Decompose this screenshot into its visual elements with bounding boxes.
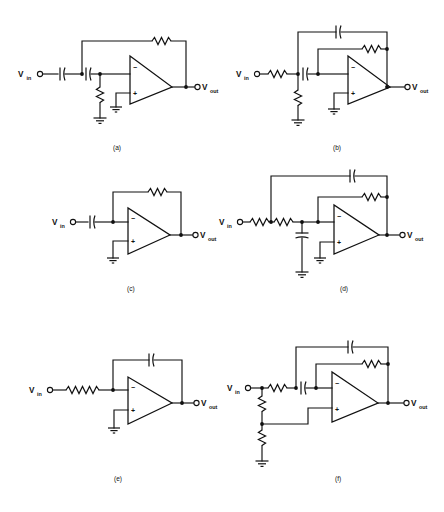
caption-a: (a)	[113, 144, 121, 152]
caption-e: (e)	[114, 475, 122, 483]
output-label-a: V	[202, 83, 208, 92]
divider-resistor-lower-f	[258, 430, 265, 446]
output-label-d: V	[407, 231, 413, 240]
ground-noninverting-a	[110, 107, 122, 112]
output-label-c: V	[200, 231, 206, 240]
wire-a-ni	[116, 93, 130, 107]
opamp-c-inverting-pin: −	[131, 215, 135, 222]
output-terminal-e[interactable]	[194, 400, 199, 405]
wire-c-fb-right	[167, 192, 181, 235]
opamp-f-noninverting-pin: +	[335, 406, 339, 413]
feedback-resistor-b	[362, 45, 381, 52]
opamp-e-noninverting-pin: +	[131, 407, 135, 414]
node-b-fb	[385, 47, 389, 51]
feedback-capacitor-f	[348, 341, 353, 354]
wire-f-fbc-left	[296, 347, 348, 388]
input-terminal-b[interactable]	[254, 71, 259, 76]
wire-e-ni	[114, 410, 128, 428]
input-label-sub-a: in	[27, 75, 32, 81]
circuit-d: V in	[219, 170, 424, 294]
input-label-sub-b: in	[244, 75, 249, 81]
input-terminal-a[interactable]	[37, 71, 42, 76]
opamp-c-noninverting-pin: +	[131, 238, 135, 245]
node-d-fb	[385, 195, 389, 199]
shunt-capacitor-d	[296, 233, 309, 238]
feedback-resistor-c	[148, 188, 167, 195]
wire-f-fbc-right	[353, 347, 388, 403]
input-terminal-f[interactable]	[245, 385, 250, 390]
circuit-b: V in	[236, 26, 429, 153]
feedback-capacitor-b	[336, 26, 341, 39]
input-label-sub-c: in	[60, 223, 65, 229]
input-resistor-e	[66, 386, 99, 393]
wire-f-tap-to-ni	[262, 408, 332, 424]
input-label-d: V	[219, 218, 225, 227]
circuit-e: V in − + V out (e)	[29, 354, 218, 484]
input-terminal-c[interactable]	[70, 219, 75, 224]
wire-d-fbc-right	[355, 176, 387, 235]
shunt-resistor-a	[96, 87, 103, 103]
wire-b-fbc-left	[298, 32, 336, 74]
feedback-resistor-d	[362, 193, 381, 200]
wire-a-fb-right	[171, 41, 186, 87]
output-label-sub-c: out	[208, 236, 217, 242]
opamp-b: − +	[348, 56, 390, 104]
series-capacitor-f	[301, 382, 306, 395]
ground-divider-f	[256, 461, 269, 466]
feedback-resistor-f	[362, 360, 381, 367]
output-label-e: V	[201, 399, 207, 408]
input-resistor-1-d	[250, 218, 269, 225]
caption-c: (c)	[127, 285, 135, 293]
output-label-f: V	[411, 399, 417, 408]
opamp-e-inverting-pin: −	[131, 384, 135, 391]
opamp-a: − +	[130, 56, 172, 104]
wire-d-ni	[320, 242, 334, 258]
input-terminal-d[interactable]	[237, 219, 242, 224]
input-label-f: V	[227, 384, 233, 393]
ground-noninverting-e	[108, 428, 120, 433]
input-resistor-2-d	[274, 218, 293, 225]
opamp-a-inverting-pin: −	[133, 64, 137, 71]
output-terminal-f[interactable]	[404, 400, 409, 405]
wire-e-fb-right	[154, 360, 182, 403]
node-b-out	[385, 85, 389, 89]
wire-a-fb-left	[82, 41, 152, 74]
output-terminal-a[interactable]	[195, 84, 200, 89]
output-terminal-b[interactable]	[405, 84, 410, 89]
opamp-c: − +	[128, 208, 170, 254]
input-resistor-b	[268, 70, 287, 77]
input-label-sub-d: in	[227, 223, 232, 229]
wire-b-ni	[334, 93, 348, 109]
circuit-c: V in − + V out (c)	[52, 188, 217, 293]
node-f-fb	[386, 362, 390, 366]
input-label-c: V	[52, 218, 58, 227]
opamp-e: − +	[128, 377, 172, 424]
ground-noninverting-b	[328, 109, 340, 114]
input-label-sub-e: in	[37, 391, 42, 397]
output-label-sub-a: out	[210, 88, 219, 94]
input-label-a: V	[18, 70, 24, 79]
feedback-capacitor-e	[149, 354, 154, 367]
output-terminal-d[interactable]	[400, 232, 405, 237]
output-label-b: V	[412, 83, 418, 92]
shunt-resistor-b	[294, 90, 301, 106]
opamp-f: − +	[332, 372, 378, 422]
ground-shunt-b	[292, 120, 305, 125]
feedback-capacitor-d	[350, 170, 355, 183]
input-label-sub-f: in	[235, 389, 240, 395]
opamp-a-noninverting-pin: +	[133, 90, 137, 97]
ground-noninverting-c	[107, 258, 119, 263]
output-terminal-c[interactable]	[193, 232, 198, 237]
opamp-d-noninverting-pin: +	[337, 239, 341, 246]
opamp-d: − +	[334, 205, 379, 254]
feedback-resistor-a	[152, 37, 171, 44]
ground-shunt-d	[296, 272, 309, 277]
caption-d: (d)	[340, 285, 348, 293]
ground-noninverting-d	[314, 258, 326, 263]
ground-shunt-a	[94, 118, 107, 123]
caption-f: (f)	[335, 475, 341, 483]
series-resistor-f	[268, 384, 287, 391]
input-terminal-e[interactable]	[47, 387, 52, 392]
input-capacitor-c	[90, 216, 95, 229]
opamp-b-inverting-pin: −	[351, 64, 355, 71]
